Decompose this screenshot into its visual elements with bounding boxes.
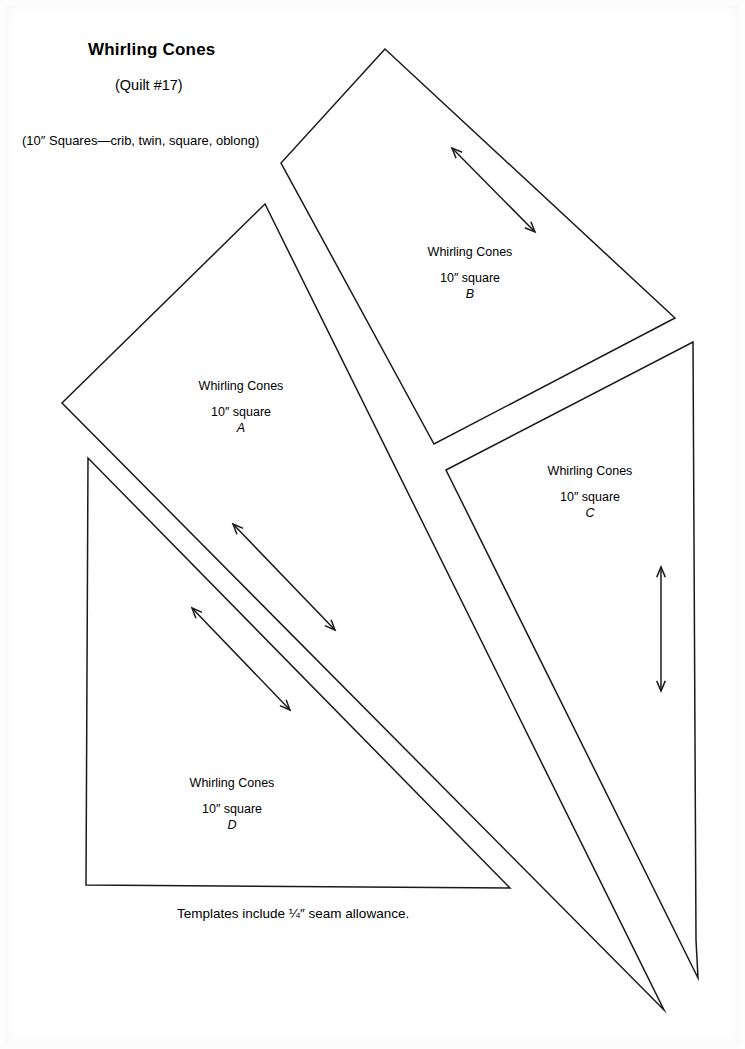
template-sheet-page: Whirling Cones (Quilt #17) (10″ Squares—… (0, 0, 745, 1049)
piece-d-name: Whirling Cones (132, 777, 332, 790)
piece-d-size: 10″ square (132, 803, 332, 816)
piece-a-size: 10″ square (141, 406, 341, 419)
piece-a-letter: A (141, 422, 341, 435)
size-variants-note: (10″ Squares—crib, twin, square, oblong) (22, 133, 259, 148)
grain-d2-shaft (192, 608, 290, 710)
grain-b-shaft (452, 148, 535, 232)
piece-label-a: Whirling Cones 10″ square A (141, 380, 341, 435)
template-drawing (0, 0, 745, 1049)
piece-outline-group (62, 49, 698, 1010)
piece-label-b: Whirling Cones 10″ square B (370, 246, 570, 301)
piece-c-size: 10″ square (490, 491, 690, 504)
piece-a-name: Whirling Cones (141, 380, 341, 393)
piece-outline-a (62, 204, 664, 1010)
piece-outline-c (446, 342, 698, 978)
piece-b-name: Whirling Cones (370, 246, 570, 259)
piece-c-letter: C (490, 507, 690, 520)
piece-label-d: Whirling Cones 10″ square D (132, 777, 332, 832)
quilt-number-subtitle: (Quilt #17) (115, 77, 183, 93)
piece-label-c: Whirling Cones 10″ square C (490, 465, 690, 520)
page-title: Whirling Cones (88, 40, 215, 60)
piece-b-size: 10″ square (370, 272, 570, 285)
seam-allowance-note: Templates include ¼″ seam allowance. (177, 906, 409, 921)
piece-d-letter: D (132, 819, 332, 832)
piece-b-letter: B (370, 288, 570, 301)
piece-c-name: Whirling Cones (490, 465, 690, 478)
grain-d1-shaft (233, 524, 335, 630)
